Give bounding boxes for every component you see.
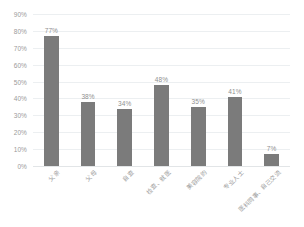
gridline xyxy=(33,31,290,32)
y-axis: 0%10%20%30%40%50%60%70%80%90% xyxy=(0,14,30,166)
bar-group[interactable]: 77% xyxy=(44,36,59,166)
bar[interactable] xyxy=(44,36,59,166)
bar-group[interactable]: 7% xyxy=(264,154,279,166)
y-axis-tick-label: 30% xyxy=(14,112,27,119)
y-axis-tick-label: 50% xyxy=(14,78,27,85)
bar-value-label: 48% xyxy=(155,76,168,83)
bar-group[interactable]: 38% xyxy=(81,102,96,166)
bar[interactable] xyxy=(154,85,169,166)
bar[interactable] xyxy=(117,109,132,166)
bar[interactable] xyxy=(81,102,96,166)
bar-value-label: 7% xyxy=(267,145,277,152)
y-axis-tick-label: 40% xyxy=(14,95,27,102)
y-axis-tick-label: 20% xyxy=(14,129,27,136)
bar-value-label: 34% xyxy=(118,100,131,107)
y-axis-tick-label: 80% xyxy=(14,27,27,34)
bar-value-label: 38% xyxy=(81,93,94,100)
gridline xyxy=(33,65,290,66)
bar-group[interactable]: 48% xyxy=(154,85,169,166)
bar-value-label: 35% xyxy=(192,98,205,105)
bar-chart: 0%10%20%30%40%50%60%70%80%90% 77%38%34%4… xyxy=(0,0,304,227)
y-axis-tick-label: 10% xyxy=(14,146,27,153)
bar-group[interactable]: 41% xyxy=(228,97,243,166)
bar-value-label: 41% xyxy=(228,88,241,95)
bar[interactable] xyxy=(264,154,279,166)
bar[interactable] xyxy=(228,97,243,166)
y-axis-tick-label: 60% xyxy=(14,61,27,68)
bar[interactable] xyxy=(191,107,206,166)
gridline xyxy=(33,14,290,15)
y-axis-tick-label: 90% xyxy=(14,11,27,18)
gridline xyxy=(33,166,290,167)
bar-group[interactable]: 34% xyxy=(117,109,132,166)
bar-group[interactable]: 35% xyxy=(191,107,206,166)
y-axis-tick-label: 70% xyxy=(14,44,27,51)
y-axis-tick-label: 0% xyxy=(17,163,27,170)
x-axis: 父亲父母自查检查、就医美容院的专业人士医科同事、自己交流 xyxy=(33,168,290,227)
bar-value-label: 77% xyxy=(45,27,58,34)
plot-area: 77%38%34%48%35%41%7% xyxy=(33,14,290,166)
gridline xyxy=(33,48,290,49)
